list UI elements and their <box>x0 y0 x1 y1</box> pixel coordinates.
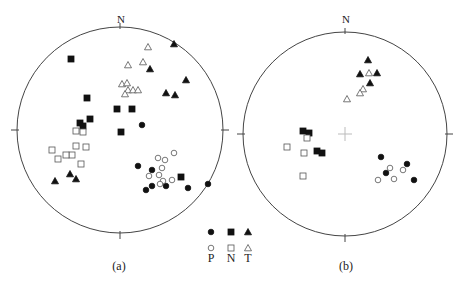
n-axis-filled-point <box>300 128 306 134</box>
n-axis-filled-point <box>80 123 86 129</box>
t-axis-filled-point <box>365 57 372 63</box>
legend-label-p: P <box>208 251 215 265</box>
panel-label-a: (a) <box>112 259 125 273</box>
p-axis-filled-point <box>185 185 191 191</box>
p-axis-open-point <box>159 165 165 171</box>
t-axis-open-point <box>140 59 147 65</box>
stereonet-panel-b <box>237 28 453 242</box>
n-axis-open-point <box>63 152 69 158</box>
legend-symbols <box>208 229 251 252</box>
t-axis-filled-point <box>163 90 170 96</box>
legend-p-open-icon <box>208 245 214 251</box>
legend-label-n: N <box>227 251 236 265</box>
p-axis-open-point <box>162 157 168 163</box>
t-axis-filled-point <box>374 70 381 76</box>
p-axis-open-point <box>169 177 175 183</box>
n-axis-open-point <box>300 173 306 179</box>
t-axis-filled-point <box>367 80 374 86</box>
n-axis-open-point <box>69 152 75 158</box>
n-axis-filled-point <box>114 106 120 112</box>
n-axis-open-point <box>80 129 86 135</box>
n-axis-filled-point <box>129 106 135 112</box>
t-axis-filled-point <box>147 66 154 72</box>
n-axis-open-point <box>78 161 84 167</box>
p-axis-filled-point <box>139 122 145 128</box>
p-axis-open-point <box>375 177 381 183</box>
t-axis-open-point <box>366 70 373 76</box>
n-axis-filled-point <box>319 150 325 156</box>
n-axis-open-point <box>304 135 310 141</box>
t-axis-open-point <box>124 80 131 86</box>
n-axis-filled-point <box>118 129 124 135</box>
p-axis-filled-point <box>163 183 169 189</box>
n-axis-filled-point <box>68 56 74 62</box>
n-axis-filled-point <box>84 95 90 101</box>
t-axis-open-point <box>344 96 351 102</box>
p-axis-filled-point <box>411 177 417 183</box>
n-axis-open-point <box>73 143 79 149</box>
t-axis-filled-point <box>172 92 179 98</box>
p-axis-filled-point <box>205 181 211 187</box>
p-axis-filled-point <box>135 163 141 169</box>
legend: P N T <box>208 229 253 266</box>
stereonet-figure: P N T (a) (b) N N <box>0 0 458 282</box>
p-axis-filled-point <box>378 154 384 160</box>
p-axis-open-point <box>391 176 397 182</box>
t-axis-filled-point <box>67 171 74 177</box>
p-axis-open-point <box>146 173 152 179</box>
t-axis-open-point <box>145 44 152 50</box>
p-axis-filled-point <box>143 187 149 193</box>
n-axis-open-point <box>301 150 307 156</box>
north-label-b: N <box>342 13 350 25</box>
t-axis-filled-point <box>357 71 364 77</box>
legend-t-filled-icon <box>245 229 252 235</box>
t-axis-open-point <box>135 87 142 93</box>
legend-p-filled-icon <box>208 229 214 235</box>
legend-t-open-icon <box>245 245 252 251</box>
p-axis-open-point <box>171 150 177 156</box>
p-axis-filled-point <box>404 161 410 167</box>
p-axis-open-point <box>400 167 406 173</box>
t-axis-filled-point <box>52 178 59 184</box>
p-axis-filled-point <box>383 170 389 176</box>
t-axis-open-point <box>125 62 132 68</box>
n-axis-open-point <box>55 156 61 162</box>
n-axis-filled-point <box>178 174 184 180</box>
panel-label-b: (b) <box>339 259 353 273</box>
p-axis-filled-point <box>149 167 155 173</box>
n-axis-open-point <box>284 144 290 150</box>
t-axis-filled-point <box>183 77 190 83</box>
n-axis-open-point <box>73 128 79 134</box>
n-axis-filled-point <box>87 116 93 122</box>
p-axis-open-point <box>157 181 163 187</box>
p-axis-open-point <box>155 155 161 161</box>
north-label-a: N <box>117 13 125 25</box>
stereonet-panel-a <box>11 23 229 239</box>
p-axis-open-point <box>387 165 393 171</box>
p-axis-filled-point <box>149 183 155 189</box>
p-axis-open-point <box>156 172 162 178</box>
legend-label-t: T <box>244 251 252 265</box>
n-axis-open-point <box>49 147 55 153</box>
n-axis-open-point <box>83 144 89 150</box>
legend-n-filled-icon <box>228 229 234 235</box>
